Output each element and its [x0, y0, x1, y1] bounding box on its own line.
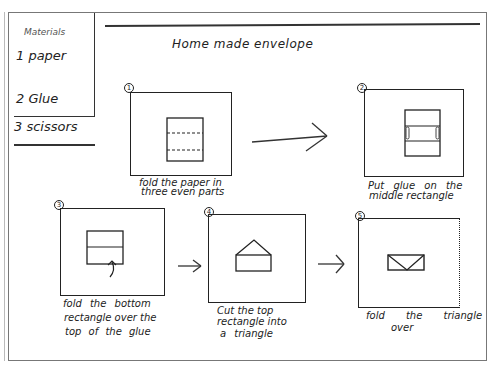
step-5-caption-line: over	[391, 322, 413, 333]
step-5-caption-line: fold the triangle	[366, 310, 482, 321]
